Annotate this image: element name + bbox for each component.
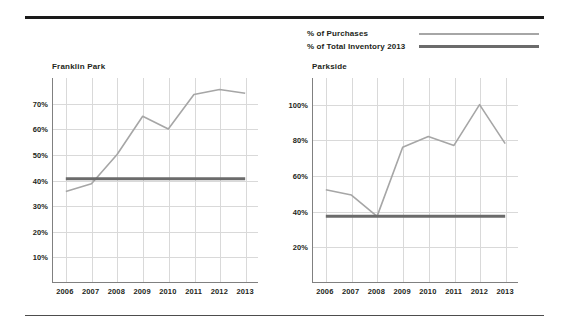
y-axis-tick-label: 20%	[33, 227, 48, 236]
x-axis-tick-label: 2012	[471, 287, 488, 296]
y-axis-tick-label: 70%	[33, 99, 48, 108]
y-axis-tick-label: 80%	[293, 136, 308, 145]
x-axis-tick-label: 2007	[342, 287, 359, 296]
x-axis-tick-label: 2008	[108, 287, 125, 296]
legend-item-total-inventory: % of Total Inventory 2013	[307, 41, 547, 52]
x-axis-tick-label: 2011	[185, 287, 202, 296]
x-axis-tick-label: 2013	[237, 287, 254, 296]
x-axis-labels-parkside: 20062007200820092010201120122013	[312, 287, 518, 299]
y-axis-tick-label: 30%	[33, 202, 48, 211]
x-axis-tick-label: 2006	[56, 287, 73, 296]
legend-line-purchases	[419, 33, 539, 35]
x-axis-tick-label: 2012	[211, 287, 228, 296]
series-line	[66, 89, 245, 191]
x-axis-tick-label: 2010	[159, 287, 176, 296]
x-axis-labels-franklin-park: 20062007200820092010201120122013	[52, 287, 258, 299]
y-axis-labels-parkside: 100%80%60%40%20%	[285, 78, 312, 283]
x-axis-tick-label: 2009	[134, 287, 151, 296]
chart-title-parkside: Parkside	[312, 62, 518, 72]
legend-line-total-inventory	[419, 45, 539, 48]
chart-title-franklin-park: Franklin Park	[52, 62, 258, 72]
x-axis-tick-label: 2007	[82, 287, 99, 296]
y-axis-tick-label: 40%	[33, 176, 48, 185]
plot-area-franklin-park	[52, 78, 258, 283]
y-axis-labels-franklin-park: 70%60%50%40%30%20%10%	[25, 78, 52, 283]
x-axis-tick-label: 2008	[368, 287, 385, 296]
bottom-rule	[25, 315, 544, 316]
x-axis-tick-label: 2009	[394, 287, 411, 296]
legend-label-purchases: % of Purchases	[307, 28, 419, 39]
series-lines-parkside	[313, 78, 518, 282]
y-axis-tick-label: 40%	[293, 207, 308, 216]
plot-area-parkside	[312, 78, 518, 283]
x-axis-tick-label: 2010	[419, 287, 436, 296]
legend-swatch-purchases	[419, 33, 539, 35]
y-axis-tick-label: 50%	[33, 150, 48, 159]
y-axis-tick-label: 60%	[33, 125, 48, 134]
legend-swatch-total-inventory	[419, 45, 539, 48]
chart-franklin-park: Franklin Park 70%60%50%40%30%20%10% 2006…	[25, 62, 258, 283]
legend-label-total-inventory: % of Total Inventory 2013	[307, 41, 419, 52]
x-axis-tick-label: 2011	[445, 287, 462, 296]
y-axis-tick-label: 60%	[293, 172, 308, 181]
x-axis-tick-label: 2006	[316, 287, 333, 296]
y-axis-tick-label: 100%	[288, 100, 308, 109]
series-lines-franklin-park	[53, 78, 258, 282]
top-rule	[25, 16, 544, 19]
x-axis-tick-label: 2013	[497, 287, 514, 296]
chart-page: % of Purchases % of Total Inventory 2013…	[0, 0, 569, 327]
series-line	[326, 105, 505, 217]
chart-parkside: Parkside 100%80%60%40%20% 20062007200820…	[285, 62, 518, 283]
legend-item-purchases: % of Purchases	[307, 28, 547, 39]
legend: % of Purchases % of Total Inventory 2013	[307, 28, 547, 54]
y-axis-tick-label: 20%	[293, 243, 308, 252]
y-axis-tick-label: 10%	[33, 253, 48, 262]
